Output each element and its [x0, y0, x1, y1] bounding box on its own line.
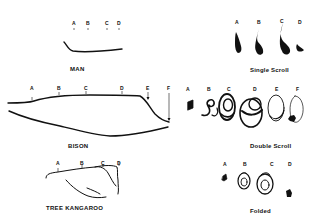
tree-kangaroo-label-d: D: [117, 161, 121, 166]
bison-label-e: E: [146, 86, 149, 91]
single-scroll-label-d: D: [298, 20, 302, 25]
double-scroll-label-b: B: [207, 87, 211, 92]
double-scroll-shapes: [188, 94, 303, 127]
double-scroll-label-d: D: [253, 87, 257, 92]
folded-title: Folded: [250, 208, 271, 214]
bison-outline: [8, 95, 169, 136]
double-scroll-label-c: C: [227, 87, 231, 92]
man-label-d: D: [117, 21, 121, 26]
folded-label-c: C: [270, 162, 274, 167]
folded-label-b: B: [243, 162, 247, 167]
single-scroll-label-c: C: [280, 19, 284, 24]
tree-kangaroo-outline: [46, 166, 118, 198]
man-label-a: A: [72, 21, 76, 26]
tree-kangaroo-title: TREE KANGAROO: [46, 205, 103, 211]
single-scroll-label-a: A: [235, 20, 239, 25]
bison-label-f: F: [167, 86, 170, 91]
diagram-drawings: [0, 0, 313, 223]
single-scroll-title: Single Scroll: [250, 67, 289, 73]
bison-label-d: D: [120, 86, 124, 91]
folded-fill: [286, 189, 292, 197]
man-label-b: B: [86, 21, 90, 26]
folded-label-d: D: [288, 162, 292, 167]
tree-kangaroo-label-c: C: [101, 161, 105, 166]
man-label-c: C: [105, 21, 109, 26]
double-scroll-label-a: A: [186, 87, 190, 92]
double-scroll-title: Double Scroll: [250, 143, 291, 149]
folded-shapes: [222, 173, 273, 195]
man-title: MAN: [70, 66, 85, 72]
man-ticks: [74, 28, 119, 30]
bison-label-b: B: [57, 86, 61, 91]
double-scroll-label-f: F: [296, 87, 299, 92]
single-scroll-shapes: [235, 23, 304, 55]
man-outline: [64, 42, 122, 52]
folded-label-a: A: [223, 162, 227, 167]
tree-kangaroo-label-a: A: [56, 161, 60, 166]
bison-title: BISON: [68, 143, 89, 149]
single-scroll-label-b: B: [257, 20, 261, 25]
bison-label-c: C: [84, 86, 88, 91]
bison-label-a: A: [30, 86, 34, 91]
tree-kangaroo-label-b: B: [80, 161, 84, 166]
double-scroll-fill: [288, 115, 296, 122]
double-scroll-label-e: E: [275, 87, 278, 92]
